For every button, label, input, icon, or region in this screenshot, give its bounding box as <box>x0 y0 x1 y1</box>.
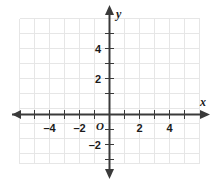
x-axis-label: x <box>199 95 206 109</box>
x-tick-label-neg4: –4 <box>43 122 56 134</box>
x-tick-label-4: 4 <box>166 122 173 134</box>
coordinate-plane-svg: 4 2 –2 –4 –2 2 4 O y x <box>0 0 218 183</box>
y-axis-label: y <box>114 7 122 21</box>
y-tick-label-neg2: –2 <box>89 139 101 151</box>
origin-label: O <box>96 120 104 132</box>
y-tick-label-2: 2 <box>95 73 101 85</box>
x-tick-label-2: 2 <box>136 122 142 134</box>
x-tick-label-neg2: –2 <box>73 122 85 134</box>
y-tick-label-4: 4 <box>95 43 102 55</box>
coordinate-plane-figure: 4 2 –2 –4 –2 2 4 O y x <box>0 0 218 183</box>
